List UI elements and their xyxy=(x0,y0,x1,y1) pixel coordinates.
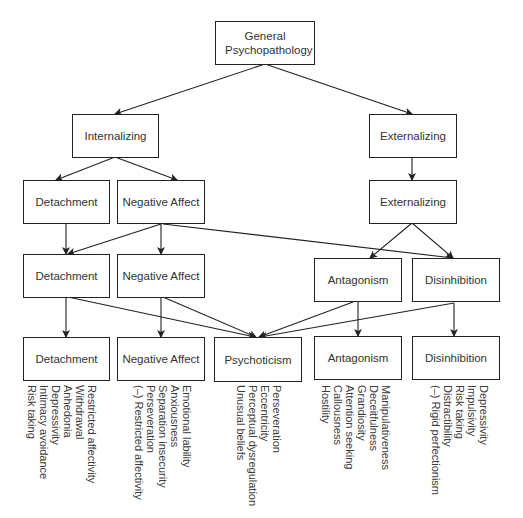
node-label: Externalizing xyxy=(380,129,446,143)
node-label: General Psychopathology xyxy=(225,29,305,57)
node-label: Antagonism xyxy=(328,273,389,287)
node-label: Negative Affect xyxy=(122,195,199,209)
node-internalizing: Internalizing xyxy=(72,114,159,158)
facet-item: Withdrawal xyxy=(74,385,86,483)
facet-item: Perseveration xyxy=(145,385,157,500)
facets-antagonism: Manipulativeness Deceitfulness Grandiosi… xyxy=(320,385,392,470)
node-label: Negative Affect xyxy=(122,269,199,283)
node-antagonism-level4: Antagonism xyxy=(314,258,402,302)
node-label: Antagonism xyxy=(328,351,389,365)
facet-item: Separation insecurity xyxy=(157,385,169,500)
facets-negative-affect: Emotional lability Anxiousness Separatio… xyxy=(133,385,193,500)
edge-disinhibition4-psychoticism5 xyxy=(260,303,454,337)
node-psychoticism-level5: Psychoticism xyxy=(214,337,302,382)
node-externalizing-level2: Externalizing xyxy=(369,114,457,158)
node-label: Detachment xyxy=(35,269,97,283)
edge-internalizing-negative-affect xyxy=(115,157,177,180)
facet-item: Impulsivity xyxy=(466,385,478,495)
node-label: Externalizing xyxy=(380,195,446,209)
facet-item: Distractibility xyxy=(442,385,454,495)
facet-item: Emotional lability xyxy=(181,385,193,500)
node-detachment-level4: Detachment xyxy=(23,254,110,298)
facet-item: Perceptual dysregulation xyxy=(247,385,259,506)
edge-general-internalizing xyxy=(115,64,265,114)
facets-disinhibition: Depressivity Impulsivity Risk taking Dis… xyxy=(430,385,490,495)
node-negative-affect-level5: Negative Affect xyxy=(117,337,205,381)
facets-psychoticism: Perseveration Eccentricity Perceptual dy… xyxy=(235,385,283,506)
edge-externalizing3-disinhibition4 xyxy=(412,223,453,258)
facet-item: Risk taking xyxy=(454,385,466,495)
node-antagonism-level5: Antagonism xyxy=(314,336,402,380)
facet-item: Hostility xyxy=(320,385,332,470)
node-general-psychopathology: General Psychopathology xyxy=(215,21,315,65)
edge-antagonism4-psychoticism5 xyxy=(259,302,353,337)
node-label: Detachment xyxy=(35,195,97,209)
facet-item: Perseveration xyxy=(271,385,283,506)
facet-item: Depressivity xyxy=(50,385,62,483)
facet-item: (–) Rigid perfectionism xyxy=(430,385,442,495)
node-label: Detachment xyxy=(35,352,97,366)
hierarchical-psychopathology-diagram: General Psychopathology Internalizing Ex… xyxy=(0,0,523,518)
facet-item: Manipulativeness xyxy=(380,385,392,470)
node-externalizing-level3: Externalizing xyxy=(369,180,457,224)
edge-general-externalizing xyxy=(265,64,412,114)
edge-negaff3-disinhibition4 xyxy=(163,224,453,258)
facet-item: Grandiosity xyxy=(356,385,368,470)
node-label: Negative Affect xyxy=(122,352,199,366)
node-disinhibition-level4: Disinhibition xyxy=(412,258,500,302)
facet-item: Unusual beliefs xyxy=(235,385,247,506)
facet-item: Eccentricity xyxy=(259,385,271,506)
node-negative-affect-level3: Negative Affect xyxy=(117,180,205,224)
node-detachment-level5: Detachment xyxy=(23,337,110,381)
node-disinhibition-level5: Disinhibition xyxy=(412,336,500,380)
facet-item: Intimacy avoidance xyxy=(38,385,50,483)
node-label: Psychoticism xyxy=(224,353,291,367)
facet-item: (–) Restricted affectivity xyxy=(133,385,145,500)
facet-item: Anhedonia xyxy=(62,385,74,483)
edge-internalizing-detachment xyxy=(56,157,115,180)
node-label: Disinhibition xyxy=(425,273,487,287)
node-label: Internalizing xyxy=(84,129,146,143)
node-negative-affect-level4: Negative Affect xyxy=(117,254,205,298)
facet-item: Risk taking xyxy=(26,385,38,483)
facet-item: Anxiousness xyxy=(169,385,181,500)
facet-item: Attention seeking xyxy=(344,385,356,470)
node-detachment-level3: Detachment xyxy=(23,180,110,224)
edge-negaff3-detachment4 xyxy=(68,224,161,254)
facet-item: Depressivity xyxy=(478,385,490,495)
facet-item: Deceitfulness xyxy=(368,385,380,470)
facet-item: Restricted affectivity xyxy=(86,385,98,483)
facets-detachment: Restricted affectivity Withdrawal Anhedo… xyxy=(26,385,98,483)
facet-item: Callousness xyxy=(332,385,344,470)
edge-negaff4-psychoticism5 xyxy=(163,297,256,337)
node-label: Disinhibition xyxy=(425,351,487,365)
